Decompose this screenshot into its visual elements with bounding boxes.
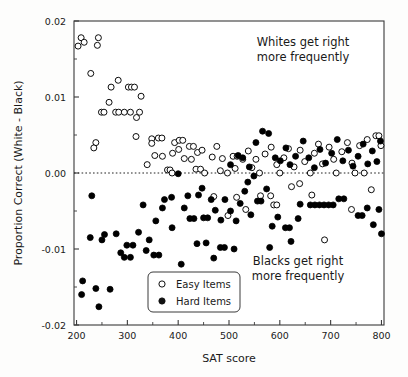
y-tick-label-0.00: 0.00: [45, 168, 66, 179]
data-point: [89, 193, 95, 199]
data-point: [378, 231, 384, 237]
data-point: [194, 241, 200, 247]
data-point: [81, 39, 87, 45]
data-point: [209, 154, 215, 160]
data-point: [289, 184, 295, 190]
data-point: [88, 70, 94, 76]
data-point: [106, 99, 112, 105]
data-point: [87, 235, 93, 241]
data-point: [130, 242, 136, 248]
data-point: [231, 246, 237, 252]
data-point: [326, 144, 332, 150]
chart-legend[interactable]: Easy Items Hard Items: [148, 272, 240, 312]
data-point: [101, 109, 107, 115]
data-point: [360, 141, 366, 147]
data-point: [136, 229, 142, 235]
data-point: [311, 165, 317, 171]
data-point: [93, 286, 99, 292]
data-point: [121, 109, 127, 115]
data-point: [317, 146, 323, 152]
data-point: [108, 84, 114, 90]
data-point: [133, 134, 139, 140]
data-point: [277, 170, 283, 176]
data-point: [331, 156, 337, 162]
data-point: [306, 155, 312, 161]
data-point: [253, 156, 259, 162]
data-point: [370, 222, 376, 228]
data-point: [185, 193, 191, 199]
data-point: [224, 170, 230, 176]
data-point: [149, 140, 155, 146]
data-point: [322, 237, 328, 243]
data-point: [242, 188, 248, 194]
data-point: [214, 143, 220, 149]
data-point: [355, 153, 361, 159]
data-point: [262, 151, 268, 157]
x-tick-label-400: 400: [169, 330, 187, 341]
data-point: [202, 170, 208, 176]
data-point: [287, 162, 293, 168]
data-point: [297, 147, 303, 153]
whites-annotation-line1: Whites get right: [257, 35, 350, 49]
data-point: [169, 194, 175, 200]
y-tick-label--0.01: -0.01: [41, 244, 66, 255]
data-point: [138, 93, 144, 99]
data-point: [91, 145, 97, 151]
data-point: [365, 161, 371, 167]
data-point: [260, 128, 266, 134]
chart-canvas: 200300400500600700800 -0.02-0.010.000.01…: [0, 0, 408, 377]
y-tick-label-0.01: 0.01: [45, 92, 66, 103]
data-point: [159, 153, 165, 159]
data-point: [169, 170, 175, 176]
data-point: [137, 109, 143, 115]
data-point: [143, 248, 149, 254]
data-point: [116, 109, 122, 115]
data-point: [95, 35, 101, 41]
data-point: [364, 205, 370, 211]
legend-marker-hard-icon: [159, 298, 165, 304]
data-point: [159, 205, 165, 211]
data-point: [293, 153, 299, 159]
data-point: [258, 198, 264, 204]
data-point: [297, 181, 303, 187]
data-point: [243, 206, 249, 212]
data-point: [203, 240, 209, 246]
data-point: [253, 140, 259, 146]
data-point: [199, 147, 205, 153]
blacks-annotation-line2: more frequently: [252, 269, 345, 283]
data-point: [161, 197, 167, 203]
data-point: [251, 173, 257, 179]
blacks-annotation: Blacks get right more frequently: [252, 254, 345, 283]
data-point: [237, 200, 243, 206]
data-point: [376, 206, 382, 212]
data-point: [267, 244, 273, 250]
scatter-plot-figure: 200300400500600700800 -0.02-0.010.000.01…: [0, 0, 408, 377]
data-point: [107, 286, 113, 292]
y-axis-tick-labels: -0.02-0.010.000.010.02: [41, 16, 66, 331]
x-tick-label-300: 300: [118, 330, 136, 341]
data-point: [274, 202, 280, 208]
x-tick-label-500: 500: [220, 330, 238, 341]
data-point: [121, 254, 127, 260]
data-point: [361, 170, 367, 176]
data-point: [159, 135, 165, 141]
data-point: [127, 254, 133, 260]
data-point: [228, 162, 234, 168]
data-point: [369, 148, 375, 154]
data-point: [208, 197, 214, 203]
data-point: [340, 158, 346, 164]
data-point: [311, 150, 317, 156]
x-tick-label-200: 200: [67, 330, 85, 341]
data-point: [341, 196, 347, 202]
data-point: [169, 225, 175, 231]
data-point: [146, 237, 152, 243]
data-point: [180, 137, 186, 143]
data-point: [350, 163, 356, 169]
data-point: [256, 170, 262, 176]
data-point: [205, 215, 211, 221]
data-point: [277, 158, 283, 164]
data-point: [79, 292, 85, 298]
data-point: [233, 218, 239, 224]
data-point: [275, 214, 281, 220]
data-point: [245, 179, 251, 185]
